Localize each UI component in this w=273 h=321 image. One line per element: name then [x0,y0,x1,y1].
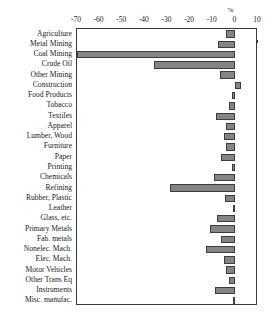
bar [229,102,236,109]
y-axis-label: Chemicals [0,172,72,181]
x-tick-label: -10 [201,15,223,25]
y-axis-label: Instruments [0,285,72,294]
y-axis-label: Nonelec. Mach. [0,244,72,253]
x-tick-label: -60 [88,15,110,25]
x-tick-label: 0 [223,15,245,25]
bar [221,154,236,161]
bar [226,123,235,130]
y-axis-label: Agriculture [0,29,72,38]
y-axis-label: Motor Vehicles [0,265,72,274]
bar [170,184,236,191]
bar [232,164,235,171]
y-axis-category-labels: AgricultureMetal MiningCoal MiningCrude … [0,28,74,305]
bar [218,41,235,48]
y-axis-label: Elec. Mach. [0,254,72,263]
x-axis-title: % [0,6,273,14]
bar [220,71,236,78]
x-tick-label: -50 [110,15,132,25]
x-axis-tick-labels: -70-60-50-40-30-20-10010 [0,15,273,26]
x-tick-label: -30 [156,15,178,25]
y-axis-label: Furniture [0,141,72,150]
y-axis-label: Primary Metals [0,224,72,233]
bar [216,113,235,120]
plot-area [76,28,257,305]
y-axis-label: Lumber, Wood [0,131,72,140]
bar [215,287,235,294]
bar [206,246,235,253]
bar [225,195,235,202]
x-tick-label: -40 [133,15,155,25]
bar [210,225,235,232]
y-axis-label: Apparel [0,121,72,130]
y-axis-label: Glass, etc. [0,213,72,222]
y-axis-label: Paper [0,152,72,161]
bar [226,143,235,150]
bar [235,82,241,89]
bar [217,215,235,222]
y-axis-label: Rubber, Plastic [0,193,72,202]
y-axis-label: Tobacco [0,100,72,109]
y-axis-label: Misc. manufac. [0,295,72,304]
y-axis-label: Leather [0,203,72,212]
y-axis-label: Other Trans Eq [0,275,72,284]
y-axis-label: Other Mining [0,70,72,79]
y-axis-label: Metal Mining [0,39,72,48]
bar [233,205,235,212]
x-tick-label: -70 [65,15,87,25]
bar [226,266,235,273]
y-axis-label: Refining [0,183,72,192]
x-tick-label: 10 [246,15,268,25]
y-axis-label: Food Products [0,90,72,99]
bars-layer [77,29,256,304]
bar [77,51,235,58]
y-axis-label: Construction [0,80,72,89]
bar-chart: % -70-60-50-40-30-20-10010 AgricultureMe… [0,0,273,321]
bar [229,277,236,284]
x-tick-mark [257,40,258,43]
bar [226,30,235,37]
x-tick-label: -20 [178,15,200,25]
y-axis-label: Printing [0,162,72,171]
y-axis-label: Crude Oil [0,59,72,68]
y-axis-label: Fab. metals [0,234,72,243]
bar [233,297,235,304]
y-axis-label: Coal Mining [0,49,72,58]
bar [224,256,235,263]
bar [224,133,235,140]
bar [221,236,236,243]
bar [154,61,235,68]
y-axis-label: Textiles [0,111,72,120]
bar [232,92,235,99]
bar [214,174,235,181]
